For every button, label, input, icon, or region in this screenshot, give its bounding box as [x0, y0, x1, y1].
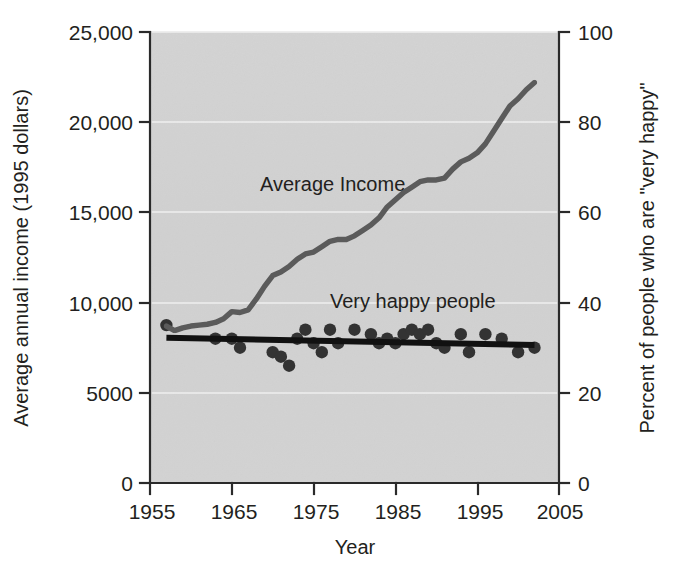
ytick-label-15000: 15,000: [69, 201, 133, 224]
ytick-label-20000: 20,000: [69, 111, 133, 134]
scatter-point: [422, 324, 434, 336]
y2tick-label-80: 80: [578, 111, 601, 134]
y2tick-label-60: 60: [578, 201, 601, 224]
scatter-point: [479, 328, 491, 340]
income-happiness-chart: 25,000 20,000 15,000 10,000 5000 0 100 8…: [0, 0, 680, 571]
xtick-label-1995: 1995: [457, 500, 504, 523]
scatter-point: [316, 346, 328, 358]
scatter-point: [324, 324, 336, 336]
scatter-point: [512, 346, 524, 358]
ytick-label-10000: 10,000: [69, 292, 133, 315]
scatter-point: [455, 328, 467, 340]
y2tick-label-20: 20: [578, 382, 601, 405]
ytick-label-0: 0: [121, 472, 133, 495]
very-happy-people-label: Very happy people: [330, 290, 496, 312]
xtick-label-1985: 1985: [375, 500, 422, 523]
scatter-point: [299, 324, 311, 336]
scatter-point: [463, 346, 475, 358]
xtick-label-2005: 2005: [537, 500, 584, 523]
x-axis-title: Year: [335, 536, 376, 558]
average-income-label: Average Income: [260, 173, 405, 195]
y-axis-title: Average annual income (1995 dollars): [10, 89, 32, 427]
scatter-point: [348, 324, 360, 336]
ytick-label-25000: 25,000: [69, 21, 133, 44]
scatter-point: [283, 360, 295, 372]
y2tick-label-0: 0: [578, 472, 590, 495]
plot-area: [150, 32, 559, 483]
y2-axis-title: Percent of people who are "very happy": [636, 82, 658, 433]
plot-texture: [150, 32, 559, 483]
y2tick-label-40: 40: [578, 292, 601, 315]
y2tick-label-100: 100: [578, 21, 613, 44]
xtick-label-1955: 1955: [129, 500, 176, 523]
scatter-point: [234, 342, 246, 354]
chart-figure: 25,000 20,000 15,000 10,000 5000 0 100 8…: [0, 0, 680, 571]
xtick-label-1975: 1975: [293, 500, 340, 523]
ytick-label-5000: 5000: [86, 382, 133, 405]
xtick-label-1965: 1965: [211, 500, 258, 523]
